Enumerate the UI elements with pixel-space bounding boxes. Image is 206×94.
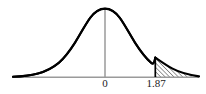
axis-label-mean: 0 [96,78,114,89]
shaded-tail-region [155,58,199,77]
axis-label-critical-value: 1.87 [138,78,174,89]
normal-curve-left-path [13,9,155,77]
normal-curve-figure: 0 1.87 [0,0,206,94]
